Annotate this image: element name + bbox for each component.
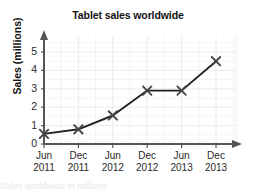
y-axis-arrowhead bbox=[40, 30, 48, 40]
x-tick-month: Dec bbox=[196, 150, 236, 162]
x-tick-label: Dec2013 bbox=[196, 150, 236, 173]
x-axis-arrowhead bbox=[232, 140, 242, 148]
chart-container: Tablet sales worldwide Sales (millions) … bbox=[0, 0, 256, 191]
y-tick-label: 2 bbox=[23, 100, 37, 112]
y-tick-label: 1 bbox=[23, 119, 37, 131]
y-tick-label: 3 bbox=[23, 82, 37, 94]
cut-off-footer-text: Sales worldwide in millions bbox=[0, 181, 256, 191]
y-tick-label: 0 bbox=[23, 137, 37, 149]
y-tick-label: 4 bbox=[23, 63, 37, 75]
major-gridlines bbox=[44, 36, 236, 144]
y-tick-label: 5 bbox=[23, 45, 37, 57]
x-tick-year: 2013 bbox=[196, 162, 236, 174]
